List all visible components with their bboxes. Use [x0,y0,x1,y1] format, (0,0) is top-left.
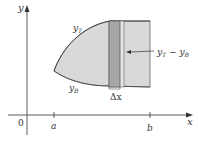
tick-label-a: a [51,121,56,131]
region-between-curves [54,21,150,87]
y-axis-label: y [17,2,24,13]
origin-label: 0 [18,118,24,128]
delta-x-label: Δx [110,92,122,102]
approximating-rectangle-strip [109,21,120,87]
tick-label-b: b [147,123,153,133]
area-between-curves-diagram: y x 0 a b yT yB Δx yT − yB [0,0,198,151]
y-axis-arrow-icon [25,5,30,12]
bottom-curve-label: yB [68,83,79,94]
top-curve-label: yT [72,23,83,34]
strip-height-label: yT − yB [156,47,189,58]
x-axis-label: x [187,116,193,127]
